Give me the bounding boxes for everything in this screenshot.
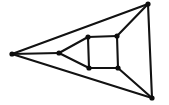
e-square-right [117,36,118,68]
v-square-top-right [114,33,119,38]
graph-figure [0,0,169,105]
graph-canvas [0,0,169,105]
v-left [9,51,14,56]
e-hub-square-bottom-left [59,53,89,68]
v-bottom-right [149,95,154,100]
v-top-right [145,1,150,6]
e-left-hub [12,53,59,54]
e-outer-bottom [12,54,152,98]
e-hub-square-top-left [59,37,88,53]
e-outer-top [12,4,148,54]
v-square-bottom-left [86,65,91,70]
e-outer-right [148,4,152,98]
v-hub [56,50,61,55]
v-square-top-left [85,34,90,39]
e-square-left [88,37,89,68]
edge-layer [12,4,152,98]
v-square-bottom-right [115,65,120,70]
e-square-top [88,36,117,37]
vertex-layer [9,1,154,100]
